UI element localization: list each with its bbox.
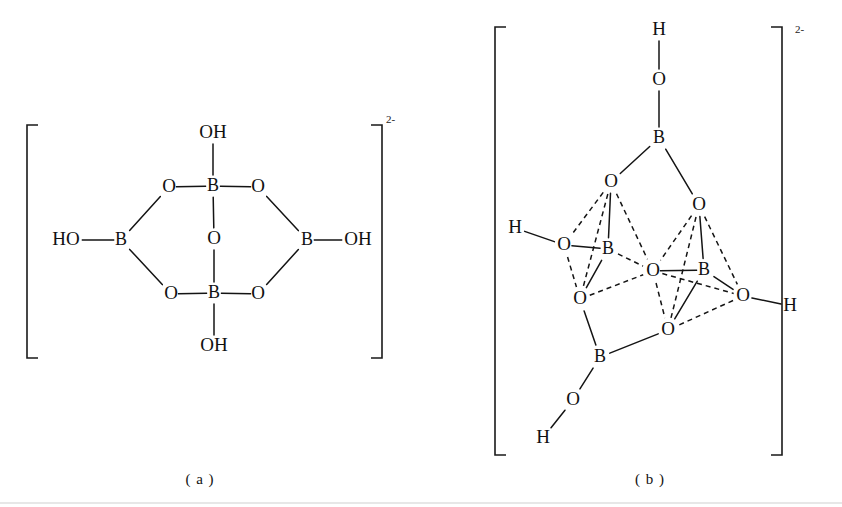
atom-label-b: B — [115, 229, 127, 249]
atom-label-h: H — [783, 294, 797, 315]
atom-label-o: O — [604, 170, 618, 191]
atom-label-h: H — [652, 18, 666, 39]
caption-b: ( b ) — [635, 471, 665, 488]
figure-background — [0, 0, 842, 507]
charge-b: 2- — [795, 23, 805, 35]
atom-label-h: H — [508, 216, 522, 237]
figure-canvas: OHBOOOHOBBOHOBOOH HOBOOHOBOBOOHOBOH 2-2-… — [0, 0, 842, 507]
atom-label-o: O — [736, 284, 750, 305]
bond-solid-b-o — [213, 197, 214, 228]
atom-label-o: O — [573, 287, 587, 308]
atom-label-o: O — [652, 68, 666, 89]
atom-label-oh: OH — [344, 228, 372, 249]
atom-label-b: B — [698, 259, 710, 279]
bond-solid-b-o — [220, 186, 251, 187]
charge-a: 2- — [386, 113, 396, 125]
atom-label-ho: HO — [52, 228, 79, 249]
caption-a: ( a ) — [185, 471, 214, 488]
atom-label-b: B — [594, 346, 606, 366]
atom-label-o: O — [251, 282, 265, 303]
atom-label-oh: OH — [200, 334, 228, 355]
chemical-structure-figure: OHBOOOHOBBOHOBOOH HOBOOHOBOBOOHOBOH 2-2-… — [0, 0, 842, 507]
atom-label-o: O — [692, 193, 706, 214]
bond-solid-o-b — [178, 293, 207, 294]
atom-label-o: O — [251, 175, 265, 196]
bond-solid-o-b — [176, 186, 206, 187]
bond-solid-b-o — [221, 293, 251, 294]
atom-label-b: B — [207, 175, 219, 195]
atom-label-o: O — [162, 175, 176, 196]
atom-label-o: O — [646, 259, 660, 280]
atom-label-b: B — [653, 127, 665, 147]
atom-label-o: O — [566, 388, 580, 409]
atom-label-o: O — [164, 282, 178, 303]
atom-label-b: B — [301, 229, 313, 249]
atom-label-o: O — [557, 233, 571, 254]
bond-solid-o-b — [660, 270, 697, 271]
atom-label-o: O — [661, 318, 675, 339]
atom-label-o: O — [207, 227, 221, 248]
atom-label-b: B — [208, 282, 220, 302]
atom-label-oh: OH — [199, 121, 227, 142]
atom-label-h: H — [536, 426, 550, 447]
atom-label-b: B — [602, 238, 614, 258]
